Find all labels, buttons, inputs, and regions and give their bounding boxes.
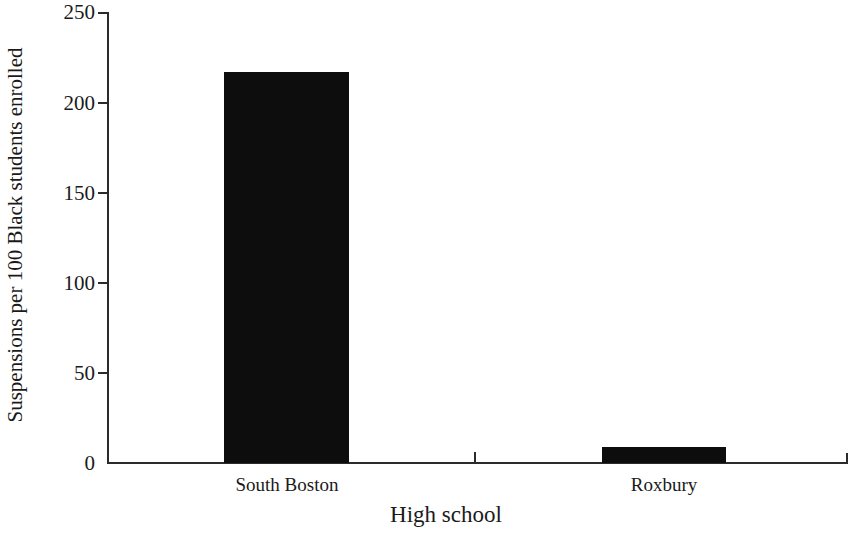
y-tick-mark-150 bbox=[98, 192, 108, 194]
bar-roxbury bbox=[602, 447, 726, 463]
y-tick-mark-50 bbox=[98, 372, 108, 374]
x-axis-line bbox=[107, 462, 848, 464]
y-axis-line bbox=[107, 12, 109, 464]
bar-south-boston bbox=[224, 72, 349, 463]
x-tick-mark-end bbox=[846, 453, 848, 464]
x-tick-mark-mid bbox=[474, 452, 476, 463]
y-tick-label-200: 200 bbox=[33, 93, 95, 114]
y-tick-mark-250 bbox=[98, 12, 108, 14]
y-tick-label-0: 0 bbox=[33, 453, 95, 474]
x-category-label-south-boston: South Boston bbox=[236, 474, 339, 496]
x-axis-title: High school bbox=[0, 502, 856, 528]
y-axis-tick-labels: 250 200 150 100 50 0 bbox=[33, 0, 95, 480]
x-category-label-roxbury: Roxbury bbox=[631, 474, 698, 496]
y-tick-mark-100 bbox=[98, 282, 108, 284]
y-tick-label-150: 150 bbox=[33, 183, 95, 204]
bar-chart: Suspensions per 100 Black students enrol… bbox=[0, 0, 856, 538]
y-tick-label-50: 50 bbox=[33, 363, 95, 384]
y-tick-label-250: 250 bbox=[33, 2, 95, 23]
y-axis-title-text: Suspensions per 100 Black students enrol… bbox=[3, 47, 28, 422]
x-axis-title-text: High school bbox=[390, 502, 502, 527]
y-tick-label-100: 100 bbox=[33, 273, 95, 294]
y-tick-mark-200 bbox=[98, 102, 108, 104]
y-axis-title: Suspensions per 100 Black students enrol… bbox=[0, 0, 30, 470]
